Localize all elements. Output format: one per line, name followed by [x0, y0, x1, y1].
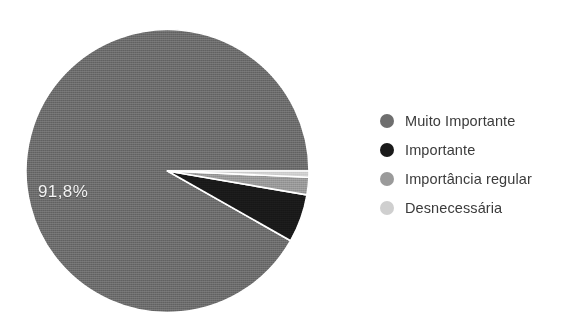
- legend-item-muito-importante[interactable]: Muito Importante: [380, 106, 580, 135]
- slice-data-label-muito-importante: 91,8%: [38, 182, 88, 202]
- legend-swatch-icon: [380, 172, 394, 186]
- legend-swatch-icon: [380, 143, 394, 157]
- legend-item-label: Importante: [405, 142, 475, 158]
- pie-svg: [0, 0, 340, 321]
- legend-item-importante[interactable]: Importante: [380, 135, 580, 164]
- pie-chart-figure: 91,8% Muito Importante Importante Import…: [0, 0, 587, 321]
- legend-swatch-icon: [380, 114, 394, 128]
- legend-item-label: Desnecessária: [405, 200, 502, 216]
- legend-item-label: Muito Importante: [405, 113, 515, 129]
- legend-item-label: Importância regular: [405, 171, 532, 187]
- pie-slice-group: [26, 29, 309, 312]
- legend-item-desnecessaria[interactable]: Desnecessária: [380, 193, 580, 222]
- chart-legend: Muito Importante Importante Importância …: [380, 106, 580, 222]
- pie-chart-plot-area: 91,8%: [0, 0, 340, 321]
- legend-swatch-icon: [380, 201, 394, 215]
- legend-item-importancia-regular[interactable]: Importância regular: [380, 164, 580, 193]
